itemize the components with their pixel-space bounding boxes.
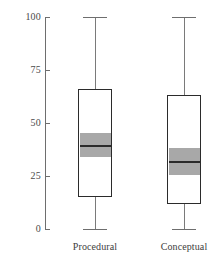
whisker-cap-upper bbox=[172, 17, 196, 18]
x-tick-label: Procedural bbox=[45, 241, 145, 253]
y-tick-label: 50 bbox=[31, 118, 41, 128]
boxplot-figure: 1007550250 ProceduralConceptual bbox=[0, 0, 213, 261]
median-line bbox=[169, 161, 200, 163]
y-tick-mark bbox=[45, 123, 50, 124]
y-tick-mark bbox=[45, 229, 50, 230]
y-tick-label: 0 bbox=[36, 224, 41, 234]
y-tick-label: 25 bbox=[31, 171, 41, 181]
whisker-lower bbox=[184, 204, 185, 230]
y-tick-mark bbox=[45, 176, 50, 177]
median-line bbox=[80, 145, 111, 147]
whisker-upper bbox=[184, 17, 185, 96]
whisker-lower bbox=[95, 197, 96, 229]
whisker-cap-upper bbox=[83, 17, 107, 18]
y-tick-mark bbox=[45, 17, 50, 18]
whisker-cap-lower bbox=[83, 229, 107, 230]
x-tick-label: Conceptual bbox=[134, 241, 213, 253]
y-tick-label: 75 bbox=[31, 65, 41, 75]
y-tick-mark bbox=[45, 70, 50, 71]
whisker-upper bbox=[95, 17, 96, 89]
whisker-cap-lower bbox=[172, 229, 196, 230]
y-tick-label: 100 bbox=[25, 12, 41, 22]
plot-area: 1007550250 ProceduralConceptual bbox=[0, 0, 213, 261]
